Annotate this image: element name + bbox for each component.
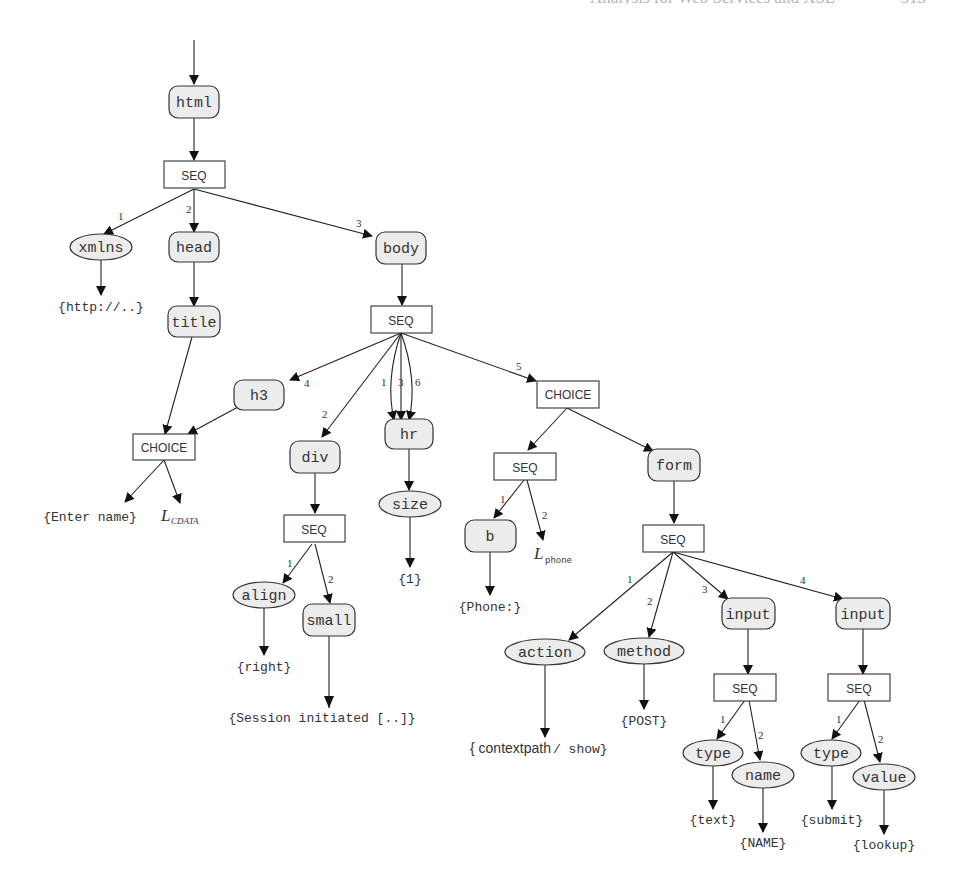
- svg-text:1: 1: [627, 573, 633, 585]
- svg-text:body: body: [383, 241, 419, 258]
- svg-text:L: L: [160, 506, 170, 525]
- svg-text:type: type: [695, 746, 731, 763]
- seq-node-root: SEQ: [164, 161, 225, 188]
- value-xmlns: {http://..}: [58, 300, 144, 315]
- element-node-body: body: [376, 232, 426, 264]
- attribute-node-method: method: [604, 638, 684, 664]
- value-small: {Session initiated [..]}: [228, 711, 415, 726]
- svg-text:1: 1: [287, 557, 293, 569]
- seq-node-input-1: SEQ: [714, 674, 776, 701]
- svg-text:small: small: [306, 613, 351, 630]
- attribute-node-size: size: [379, 491, 441, 517]
- attribute-node-type-2: type: [801, 740, 861, 766]
- value-name: {NAME}: [740, 836, 787, 851]
- svg-text:SEQ: SEQ: [846, 682, 871, 696]
- svg-text:CHOICE: CHOICE: [141, 441, 188, 455]
- svg-text:2: 2: [878, 733, 884, 745]
- svg-text:1: 1: [381, 376, 387, 388]
- svg-text:2: 2: [322, 408, 328, 420]
- element-node-input-2: input: [836, 598, 890, 629]
- svg-text:4: 4: [800, 574, 806, 586]
- svg-text:3: 3: [398, 376, 404, 388]
- svg-text:CDATA: CDATA: [171, 516, 199, 526]
- svg-text:CHOICE: CHOICE: [545, 388, 592, 402]
- value-enter-name: {Enter name}: [43, 510, 137, 525]
- svg-text:phone: phone: [545, 556, 572, 566]
- element-node-input-1: input: [722, 598, 775, 629]
- svg-text:2: 2: [758, 729, 764, 741]
- value-action: { contextpath / show}: [470, 740, 608, 757]
- svg-text:input: input: [725, 607, 770, 624]
- attribute-node-action: action: [505, 639, 585, 665]
- svg-text:value: value: [861, 770, 906, 787]
- svg-text:1: 1: [836, 713, 842, 725]
- choice-node-title: CHOICE: [133, 434, 195, 460]
- seq-node-input-2: SEQ: [828, 674, 890, 701]
- svg-text:xmlns: xmlns: [78, 240, 123, 257]
- svg-text:2: 2: [542, 509, 548, 521]
- svg-text:2: 2: [186, 203, 192, 215]
- language-phone: L phone: [533, 544, 572, 566]
- svg-text:2: 2: [647, 595, 653, 607]
- svg-text:action: action: [518, 645, 572, 662]
- svg-text:form: form: [656, 458, 692, 475]
- element-node-b: b: [465, 520, 516, 552]
- seq-node-phone: SEQ: [494, 453, 556, 480]
- element-node-form: form: [648, 449, 700, 481]
- svg-text:SEQ: SEQ: [301, 523, 326, 537]
- edges: [101, 40, 884, 834]
- svg-text:div: div: [301, 450, 328, 467]
- svg-text:html: html: [176, 95, 212, 112]
- value-value: {lookup}: [853, 838, 915, 853]
- seq-node-body: SEQ: [371, 306, 432, 333]
- svg-text:SEQ: SEQ: [388, 314, 413, 328]
- svg-text:6: 6: [415, 376, 421, 388]
- value-align: {right}: [237, 660, 292, 675]
- attribute-node-align: align: [233, 582, 295, 608]
- svg-text:input: input: [840, 607, 885, 624]
- svg-text:2: 2: [328, 573, 334, 585]
- element-node-h3: h3: [234, 380, 284, 410]
- svg-text:{ contextpath: { contextpath: [470, 740, 551, 756]
- tree-diagram: 1 2 3 4 2 1 3 6 5 1 2 1 2 1 2 3 4 1 2 1 …: [0, 0, 956, 877]
- svg-text:h3: h3: [250, 388, 268, 405]
- element-node-small: small: [303, 604, 355, 636]
- svg-text:SEQ: SEQ: [732, 682, 757, 696]
- svg-text:head: head: [176, 240, 212, 257]
- element-node-div: div: [290, 441, 340, 473]
- svg-text:b: b: [485, 529, 494, 546]
- language-cdata: L CDATA: [160, 506, 199, 526]
- value-type-1: {text}: [690, 813, 737, 828]
- svg-text:1: 1: [118, 210, 124, 222]
- svg-text:hr: hr: [400, 427, 418, 444]
- svg-text:5: 5: [516, 360, 522, 372]
- attribute-node-value: value: [853, 764, 915, 790]
- element-node-html: html: [169, 86, 219, 118]
- seq-node-form: SEQ: [643, 525, 704, 552]
- element-node-title: title: [168, 306, 220, 337]
- svg-text:name: name: [745, 768, 781, 785]
- element-node-hr: hr: [385, 419, 433, 449]
- attribute-node-name: name: [732, 762, 794, 788]
- attribute-node-xmlns: xmlns: [70, 234, 132, 260]
- svg-text:SEQ: SEQ: [181, 169, 206, 183]
- svg-text:4: 4: [304, 377, 310, 389]
- svg-text:L: L: [533, 544, 543, 563]
- svg-text:title: title: [171, 315, 216, 332]
- value-size: {1}: [398, 572, 421, 587]
- value-b: {Phone:}: [459, 600, 521, 615]
- choice-node-body: CHOICE: [537, 381, 599, 408]
- value-type-2: {submit}: [801, 813, 863, 828]
- svg-text:/ show}: / show}: [553, 742, 608, 757]
- svg-text:SEQ: SEQ: [512, 461, 537, 475]
- svg-text:1: 1: [720, 713, 726, 725]
- svg-text:type: type: [813, 746, 849, 763]
- svg-text:method: method: [617, 644, 671, 661]
- svg-text:3: 3: [702, 583, 708, 595]
- element-node-head: head: [169, 232, 219, 262]
- svg-text:size: size: [392, 497, 428, 514]
- svg-text:SEQ: SEQ: [660, 533, 685, 547]
- svg-text:3: 3: [356, 217, 362, 229]
- svg-text:align: align: [241, 588, 286, 605]
- attribute-node-type-1: type: [683, 740, 743, 766]
